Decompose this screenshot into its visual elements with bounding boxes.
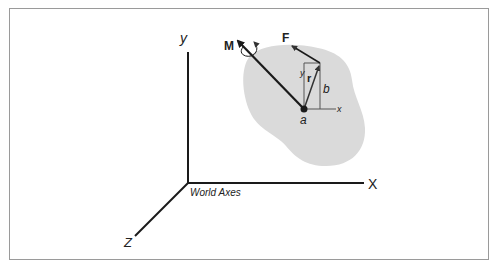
- point-a: [301, 106, 308, 113]
- local-x-label: x: [336, 104, 342, 114]
- world-axes-caption: World Axes: [190, 187, 241, 198]
- y-axis-label: y: [179, 30, 188, 46]
- z-axis: [135, 183, 188, 236]
- z-axis-label: Z: [123, 235, 133, 250]
- local-y-label: y: [299, 68, 305, 78]
- diagram-canvas: y X Z World Axes M F r y b x a: [0, 0, 497, 267]
- force-label: F: [282, 31, 289, 45]
- moment-label: M: [224, 39, 234, 53]
- x-axis-label: X: [368, 176, 378, 192]
- a-label: a: [300, 113, 307, 127]
- r-label: r: [307, 72, 312, 84]
- b-label: b: [323, 82, 330, 96]
- moment-rotation-arc: [241, 42, 257, 56]
